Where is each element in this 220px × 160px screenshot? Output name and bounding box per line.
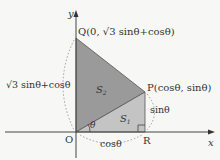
- point-o-label: O: [65, 134, 73, 145]
- measure-pr-label: sinθ: [150, 104, 170, 115]
- y-axis-arrow-icon: [74, 10, 79, 17]
- point-q-name: Q: [78, 26, 86, 37]
- region-s1-sub: 1: [127, 118, 131, 125]
- point-p-coords: (cosθ, sinθ): [154, 82, 212, 93]
- x-axis-label: x: [208, 137, 214, 148]
- point-r-label: R: [143, 135, 151, 146]
- point-q-label: Q(0, √3 sinθ+cosθ): [78, 26, 175, 37]
- angle-theta-label: θ: [90, 120, 96, 130]
- diagram-canvas: y x Q(0, √3 sinθ+cosθ) P(cosθ, sinθ) O R…: [0, 0, 220, 160]
- y-axis-label: y: [67, 8, 74, 19]
- point-p-label: P(cosθ, sinθ): [147, 82, 212, 93]
- measure-or-label: cosθ: [100, 138, 122, 149]
- x-axis-arrow-icon: [208, 130, 215, 135]
- region-s2-sub: 2: [102, 89, 107, 96]
- measure-oq-label: √3 sinθ+cosθ: [6, 79, 71, 90]
- point-q-coords: (0, √3 sinθ+cosθ): [86, 26, 174, 37]
